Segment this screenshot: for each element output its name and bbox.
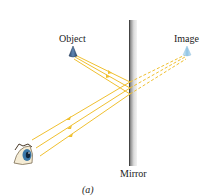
figure-caption: (a) — [82, 184, 94, 195]
image-label: Image — [174, 33, 199, 44]
mirror — [129, 20, 137, 166]
eye-icon — [14, 144, 33, 165]
incident-rays — [74, 55, 130, 94]
image-icon — [183, 46, 191, 56]
object-icon — [69, 46, 77, 57]
plane-mirror-diagram — [0, 0, 217, 196]
reflected-rays — [32, 82, 130, 156]
mirror-label: Mirror — [120, 168, 147, 179]
virtual-rays — [130, 55, 186, 94]
object-label: Object — [59, 33, 86, 44]
